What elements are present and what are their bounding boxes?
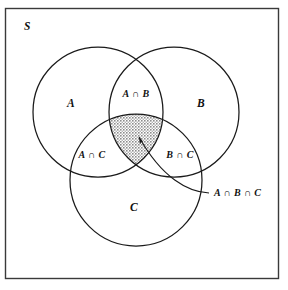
region-label-b-inter-c: B ∩ C bbox=[165, 149, 194, 160]
universe-label: S bbox=[24, 20, 31, 32]
set-label-c: C bbox=[130, 201, 138, 213]
set-label-a: A bbox=[66, 97, 75, 109]
venn-diagram-canvas: S A B C A ∩ B A ∩ C B ∩ C A ∩ B ∩ C bbox=[0, 0, 288, 290]
region-label-a-inter-b-inter-c: A ∩ B ∩ C bbox=[213, 187, 261, 198]
region-label-a-inter-b: A ∩ B bbox=[122, 88, 150, 99]
region-label-a-inter-c: A ∩ C bbox=[78, 149, 106, 160]
venn-diagram-figure: S A B C A ∩ B A ∩ C B ∩ C A ∩ B ∩ C bbox=[0, 0, 288, 290]
set-label-b: B bbox=[196, 97, 205, 109]
